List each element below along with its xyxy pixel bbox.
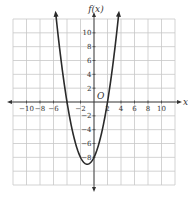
y-axis-label: f(x) <box>87 4 104 14</box>
y-tick-label: 4 <box>87 71 92 79</box>
x-tick-label: 8 <box>146 105 150 113</box>
x-tick-label: −8 <box>35 105 45 113</box>
x-tick-label: 4 <box>119 105 124 113</box>
x-tick-label: −6 <box>48 105 59 113</box>
axes <box>7 12 182 192</box>
curve-arrow-right <box>116 11 121 17</box>
y-tick-label: −6 <box>81 140 92 148</box>
y-tick-label: 2 <box>87 85 91 93</box>
tick-labels: −10−8−6−2246810−8−6−4−2246810 <box>19 29 166 162</box>
y-tick-label: −4 <box>81 126 92 134</box>
y-tick-label: −2 <box>81 112 91 120</box>
y-tick-label: 6 <box>87 57 92 65</box>
x-tick-label: 6 <box>132 105 137 113</box>
y-tick-label: 8 <box>87 43 91 51</box>
x-tick-label: −10 <box>19 105 34 113</box>
x-axis-arrow-left <box>7 100 12 104</box>
x-axis-label: x <box>183 97 188 107</box>
y-axis-arrow-down <box>92 187 96 192</box>
x-axis-arrow-right <box>177 100 182 104</box>
y-tick-label: 10 <box>83 29 92 37</box>
curve-arrow-left <box>54 11 59 17</box>
parabola-chart: −10−8−6−2246810−8−6−4−2246810 f(x) x O <box>0 0 188 198</box>
origin-label: O <box>97 91 105 101</box>
x-tick-label: 10 <box>157 105 166 113</box>
